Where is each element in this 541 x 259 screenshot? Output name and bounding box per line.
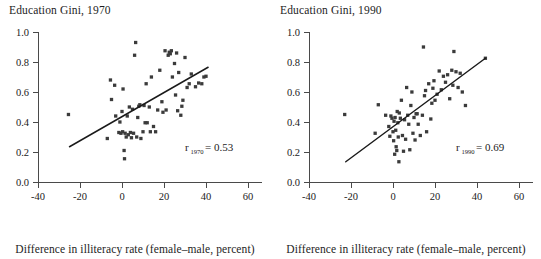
scatter-point xyxy=(163,49,166,52)
scatter-plot-1970: 0.00.20.40.60.81.0-40-200204060r1970= 0.… xyxy=(0,20,270,220)
scatter-point xyxy=(181,99,184,102)
scatter-point xyxy=(123,157,126,160)
y-tick-label: 0.0 xyxy=(287,177,300,188)
scatter-point xyxy=(401,134,404,137)
y-tick-label: 0.6 xyxy=(287,87,300,98)
x-tick-label: 0 xyxy=(119,191,124,202)
scatter-point xyxy=(425,130,428,133)
correlation-subscript: 1990 xyxy=(461,148,475,155)
scatter-point xyxy=(423,94,426,97)
correlation-annotation: r xyxy=(456,141,460,153)
scatter-point xyxy=(183,56,186,59)
scatter-point xyxy=(197,81,200,84)
scatter-point xyxy=(145,82,148,85)
scatter-point xyxy=(185,86,188,89)
scatter-point xyxy=(188,82,191,85)
scatter-point xyxy=(402,150,405,153)
x-tick-label: -40 xyxy=(31,191,45,202)
scatter-point xyxy=(174,93,177,96)
scatter-point xyxy=(109,78,112,81)
scatter-point xyxy=(431,87,434,90)
scatter-point xyxy=(146,121,149,124)
scatter-point xyxy=(152,125,155,128)
scatter-point xyxy=(454,70,457,73)
scatter-point xyxy=(384,114,387,117)
x-tick-label: 0 xyxy=(390,191,395,202)
scatter-point xyxy=(461,90,464,93)
scatter-point xyxy=(412,116,415,119)
trend-line xyxy=(346,58,486,162)
scatter-point xyxy=(204,75,207,78)
scatter-point xyxy=(133,54,136,57)
scatter-point xyxy=(110,98,113,101)
correlation-value: = 0.53 xyxy=(205,141,234,153)
correlation-value: = 0.69 xyxy=(476,141,505,153)
x-tick-label: -20 xyxy=(344,191,358,202)
scatter-point xyxy=(405,86,408,89)
scatter-point xyxy=(113,84,116,87)
scatter-point xyxy=(160,100,163,103)
panel-title-1990: Education Gini, 1990 xyxy=(280,4,382,16)
y-tick-label: 0.8 xyxy=(16,57,29,68)
scatter-point xyxy=(427,82,430,85)
trend-line xyxy=(70,67,209,147)
scatter-point xyxy=(408,148,411,151)
scatter-point xyxy=(429,117,432,120)
scatter-point xyxy=(393,153,396,156)
scatter-point xyxy=(149,130,152,133)
x-tick-label: -20 xyxy=(73,191,87,202)
scatter-point xyxy=(393,116,396,119)
y-tick-label: 0.4 xyxy=(287,117,301,128)
scatter-point xyxy=(444,81,447,84)
scatter-point xyxy=(128,105,131,108)
scatter-point xyxy=(114,114,117,117)
scatter-point xyxy=(446,73,449,76)
x-tick-label: 60 xyxy=(514,191,525,202)
x-tick-label: 20 xyxy=(430,191,441,202)
scatter-point xyxy=(399,117,402,120)
scatter-point xyxy=(448,97,451,100)
scatter-point xyxy=(154,130,157,133)
scatter-point xyxy=(169,52,172,55)
scatter-point xyxy=(343,113,346,116)
scatter-point xyxy=(430,102,433,105)
scatter-point xyxy=(106,137,109,140)
scatter-plot-1990: 0.00.20.40.60.81.0-40-200204060r1990= 0.… xyxy=(271,20,541,220)
scatter-point xyxy=(413,138,416,141)
education-gini-figure: Education Gini, 1970 0.00.20.40.60.81.0-… xyxy=(0,0,541,259)
y-tick-label: 0.8 xyxy=(287,57,300,68)
scatter-point xyxy=(388,135,391,138)
scatter-point xyxy=(377,103,380,106)
scatter-point xyxy=(118,120,121,123)
scatter-point xyxy=(122,149,125,152)
scatter-point xyxy=(158,69,161,72)
x-tick-label: 60 xyxy=(243,191,254,202)
scatter-point xyxy=(416,112,419,115)
scatter-point xyxy=(450,69,453,72)
scatter-point xyxy=(121,87,124,90)
scatter-point xyxy=(374,132,377,135)
scatter-point xyxy=(179,114,182,117)
scatter-point xyxy=(173,62,176,65)
scatter-point xyxy=(419,134,422,137)
scatter-point xyxy=(411,132,414,135)
y-tick-label: 1.0 xyxy=(16,27,29,38)
scatter-point xyxy=(404,138,407,141)
scatter-point xyxy=(394,129,397,132)
scatter-point xyxy=(421,114,424,117)
scatter-point xyxy=(398,111,401,114)
scatter-point xyxy=(459,72,462,75)
scatter-point xyxy=(130,136,133,139)
y-tick-label: 0.0 xyxy=(16,177,29,188)
y-tick-label: 0.4 xyxy=(16,117,30,128)
x-tick-label: 40 xyxy=(201,191,212,202)
scatter-point xyxy=(171,75,174,78)
panel-title-1970: Education Gini, 1970 xyxy=(9,4,111,16)
scatter-point xyxy=(180,105,183,108)
scatter-point xyxy=(387,125,390,128)
scatter-point xyxy=(177,71,180,74)
scatter-point xyxy=(134,41,137,44)
scatter-point xyxy=(422,45,425,48)
scatter-point xyxy=(190,72,193,75)
scatter-point xyxy=(400,99,403,102)
